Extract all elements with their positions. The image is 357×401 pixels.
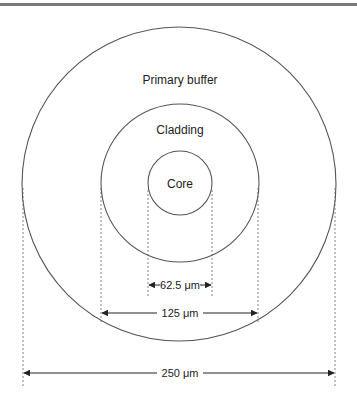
- buffer-dimension: 250 μm: [24, 367, 334, 379]
- primary-buffer-label: Primary buffer: [142, 73, 217, 87]
- core-dimension: 62.5 μm: [149, 279, 211, 291]
- fiber-diagram: Primary buffer Cladding Core 62.5 μm 125…: [0, 0, 357, 401]
- cladding-dimension: 125 μm: [102, 307, 257, 319]
- core-label: Core: [167, 177, 193, 191]
- cladding-dimension-label: 125 μm: [162, 307, 199, 319]
- buffer-dimension-label: 250 μm: [162, 367, 199, 379]
- cladding-label: Cladding: [156, 123, 203, 137]
- core-dimension-label: 62.5 μm: [160, 279, 200, 291]
